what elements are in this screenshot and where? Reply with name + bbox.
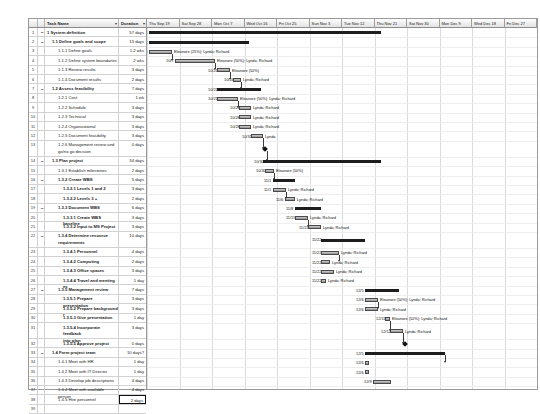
task-row-duration[interactable]: 3 days — [119, 304, 146, 312]
summary-task-bar[interactable] — [149, 41, 249, 44]
task-bar[interactable] — [239, 115, 251, 119]
task-row-duration[interactable]: 1 day — [119, 314, 146, 322]
column-header-duration[interactable]: Duration ▾ — [119, 19, 146, 27]
timeline-body[interactable]: 10/110/110/1Eleanore (25%); Lynda; Richa… — [147, 28, 537, 390]
task-row-duration[interactable]: 1 wk — [119, 94, 146, 102]
task-row[interactable]: 351.4.2 Meet with IT Director1 day — [29, 367, 146, 376]
task-row[interactable]: 51.1.3 Review results3 days — [29, 66, 146, 75]
task-row-duration[interactable]: 2 days — [119, 395, 146, 403]
task-row[interactable]: 21.1 Define goals and scope15 days — [29, 37, 146, 46]
task-bar[interactable] — [321, 260, 330, 264]
task-row-duration[interactable]: 5 days — [119, 175, 146, 183]
task-row-duration[interactable]: 2 days — [119, 75, 146, 83]
task-row-duration[interactable]: 3 days — [119, 295, 146, 303]
task-row-duration[interactable]: 6 days — [119, 204, 146, 212]
task-grid[interactable]: Task Name ▾ Duration ▾ 11 System definit… — [28, 18, 146, 390]
task-row-duration[interactable]: 0 days — [119, 141, 146, 156]
task-bar[interactable] — [308, 225, 321, 229]
task-row[interactable]: 301.3.5.3 Give presentation1 day — [29, 314, 146, 323]
task-row[interactable]: 131.2.6 Management review and go/no go d… — [29, 141, 146, 157]
task-row-duration[interactable]: 3 days — [119, 323, 146, 338]
task-row[interactable]: 39 — [29, 405, 146, 414]
task-row-duration[interactable]: 34 days — [119, 157, 146, 165]
task-bar[interactable] — [391, 389, 409, 390]
task-bar[interactable] — [321, 251, 339, 255]
task-row[interactable]: 291.3.5.2 Prepare background r3 days — [29, 304, 146, 313]
summary-task-bar[interactable] — [365, 352, 445, 355]
task-row-duration[interactable]: 3 days — [119, 103, 146, 111]
task-bar[interactable] — [239, 125, 251, 129]
task-row-duration[interactable]: 7 days — [119, 84, 146, 92]
task-row[interactable]: 11 System definition57 days — [29, 28, 146, 37]
summary-task-bar[interactable] — [365, 289, 399, 292]
task-row[interactable]: 31.1.1 Define goals1.2 wks — [29, 47, 146, 56]
task-row-duration[interactable]: 15 days — [119, 37, 146, 45]
task-row[interactable]: 271.3.5 Management review7 days — [29, 285, 146, 294]
task-row-duration[interactable]: 2 days — [119, 257, 146, 265]
task-row[interactable]: 151.3.1 Establish milestones2 days — [29, 166, 146, 175]
task-bar[interactable] — [239, 106, 251, 110]
task-row-duration[interactable]: 2 wks — [119, 56, 146, 64]
task-bar[interactable] — [175, 59, 215, 63]
task-row[interactable]: 281.3.5.1 Prepare presentation3 days — [29, 295, 146, 304]
task-bar[interactable] — [321, 270, 334, 274]
task-row[interactable]: 141.3 Plan project34 days — [29, 157, 146, 166]
task-row-duration[interactable]: 3 days — [119, 113, 146, 121]
task-bar[interactable] — [217, 68, 230, 72]
task-bar[interactable] — [251, 134, 263, 138]
task-row[interactable]: 101.2.3 Technical3 days — [29, 113, 146, 122]
gantt-timeline[interactable]: Thu Sep 19Sat Sep 28Mon Oct 7Wed Oct 16F… — [146, 18, 538, 390]
task-row-duration[interactable]: 4 days — [119, 377, 146, 385]
task-row[interactable]: 121.2.5 Document feasibility3 days — [29, 131, 146, 140]
task-row-duration[interactable]: 3 days — [119, 222, 146, 230]
task-row-duration[interactable]: 3 days — [119, 213, 146, 221]
task-row[interactable]: 61.1.4 Document results2 days — [29, 75, 146, 84]
task-bar[interactable] — [273, 188, 286, 192]
task-row-duration[interactable]: 3 days — [119, 185, 146, 193]
filter-dropdown-icon-duration[interactable]: ▾ — [143, 21, 145, 26]
task-row[interactable]: 41.1.2 Define system boundaries2 wks — [29, 56, 146, 65]
task-row[interactable]: 381.4.5 Hire personnel2 days — [29, 395, 146, 404]
task-row-duration[interactable]: 1.2 wks — [119, 47, 146, 55]
summary-task-bar[interactable] — [263, 160, 381, 163]
task-row-duration[interactable]: 3 days — [119, 122, 146, 130]
task-row[interactable]: 201.3.3.1 Create WBS baseline3 days — [29, 213, 146, 222]
task-row[interactable]: 91.2.2 Schedule3 days — [29, 103, 146, 112]
task-bar[interactable] — [217, 97, 238, 101]
task-row[interactable]: 81.2.1 Cost1 wk — [29, 94, 146, 103]
task-bar[interactable] — [265, 169, 274, 173]
task-bar[interactable] — [365, 361, 369, 365]
column-header-task-name[interactable]: Task Name ▾ — [45, 19, 119, 27]
task-row[interactable]: 341.4.1 Meet with HR1 day — [29, 358, 146, 367]
task-row-duration[interactable]: 10 days? — [119, 348, 146, 356]
task-row-duration[interactable]: 3 days — [119, 131, 146, 139]
task-row[interactable]: 231.3.4.1 Personnel4 days — [29, 248, 146, 257]
task-row[interactable]: 331.4 Form project team10 days? — [29, 348, 146, 357]
task-row-duration[interactable]: 3 days — [119, 66, 146, 74]
task-row-duration[interactable]: 4 days — [119, 386, 146, 394]
task-bar[interactable] — [373, 380, 391, 384]
task-row[interactable]: 181.3.2.2 Levels 3 +2 days — [29, 194, 146, 203]
task-row[interactable]: 371.4.4 Meet with available person4 days — [29, 386, 146, 395]
task-row[interactable]: 71.2 Assess feasibility7 days — [29, 84, 146, 93]
task-bar[interactable] — [365, 298, 378, 302]
summary-task-bar[interactable] — [273, 179, 295, 182]
task-row[interactable]: 251.3.4.3 Office spaces3 days — [29, 267, 146, 276]
task-bar[interactable] — [295, 216, 308, 220]
task-row[interactable]: 261.3.4.4 Travel and meeting ex1 day — [29, 276, 146, 285]
task-row[interactable]: 221.3.4 Determine resource requirements1… — [29, 232, 146, 248]
task-bar[interactable] — [149, 50, 172, 54]
task-row-duration[interactable]: 1 day — [119, 276, 146, 284]
task-bar[interactable] — [233, 78, 241, 82]
task-row-duration[interactable]: 2 days — [119, 194, 146, 202]
task-row-duration[interactable]: 7 days — [119, 285, 146, 293]
task-row-duration[interactable]: 10 days — [119, 232, 146, 247]
task-bar[interactable] — [321, 279, 326, 283]
task-bar[interactable] — [365, 370, 369, 374]
summary-task-bar[interactable] — [321, 239, 365, 242]
summary-task-bar[interactable] — [295, 207, 321, 210]
summary-task-bar[interactable] — [149, 31, 381, 34]
task-row-duration[interactable]: 2 days — [119, 166, 146, 174]
task-row-duration[interactable]: 57 days — [119, 28, 146, 36]
task-row[interactable]: 171.3.2.1 Levels 1 and 23 days — [29, 185, 146, 194]
